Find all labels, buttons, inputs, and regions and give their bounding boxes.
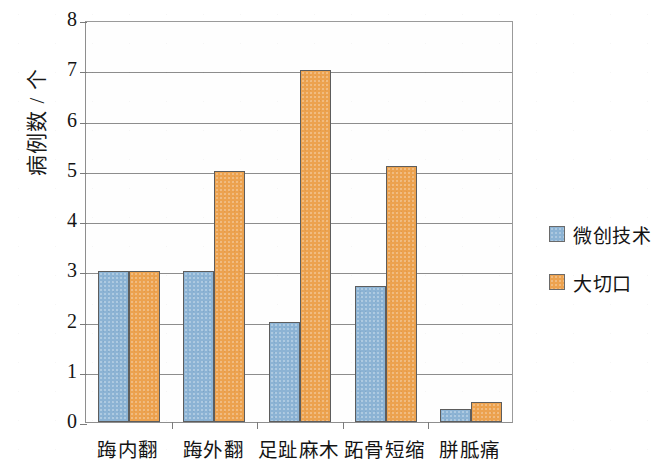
y-tick-mark <box>80 424 87 425</box>
y-tick-label: 2 <box>47 311 77 331</box>
y-tick-mark <box>80 273 87 274</box>
legend-swatch-icon <box>549 226 565 242</box>
bar <box>386 166 417 422</box>
y-tick-mark <box>80 223 87 224</box>
y-tick-mark <box>80 72 87 73</box>
x-tick-mark <box>428 422 429 429</box>
y-tick-label: 4 <box>47 210 77 230</box>
bar <box>355 286 386 422</box>
plot-area <box>85 21 513 423</box>
y-tick-label: 7 <box>47 59 77 79</box>
bar <box>214 171 245 422</box>
gridline <box>86 72 512 73</box>
x-tick-label: 跖骨短缩 <box>342 434 428 463</box>
y-tick-label: 3 <box>47 260 77 280</box>
legend-label: 微创技术 <box>573 221 651 248</box>
y-tick-mark <box>80 374 87 375</box>
bar <box>269 322 300 423</box>
y-tick-label: 1 <box>47 361 77 381</box>
legend-label: 大切口 <box>573 269 632 296</box>
bar <box>440 409 471 422</box>
bar <box>300 70 331 422</box>
gridline <box>86 223 512 224</box>
y-tick-mark <box>80 22 87 23</box>
x-tick-label: 胼胝痛 <box>427 434 513 463</box>
y-axis-label: 病例数 / 个 <box>20 22 48 222</box>
y-tick-mark <box>80 173 87 174</box>
bar-chart-figure: 病例数 / 个 876543210 踇内翻踇外翻足趾麻木跖骨短缩胼胝痛 微创技术… <box>0 0 660 463</box>
legend-item: 大切口 <box>549 272 660 292</box>
bar <box>98 271 129 422</box>
legend-swatch-icon <box>549 274 565 290</box>
legend-item: 微创技术 <box>549 224 660 244</box>
x-tick-label: 足趾麻木 <box>256 434 342 463</box>
gridline <box>86 123 512 124</box>
y-tick-mark <box>80 324 87 325</box>
y-tick-label: 6 <box>47 110 77 130</box>
y-tick-label: 5 <box>47 160 77 180</box>
bar <box>183 271 214 422</box>
bar <box>129 271 160 422</box>
y-tick-label: 8 <box>47 9 77 29</box>
gridline <box>86 173 512 174</box>
y-tick-mark <box>80 123 87 124</box>
x-tick-mark <box>172 422 173 429</box>
x-tick-label: 踇外翻 <box>171 434 257 463</box>
x-tick-mark <box>343 422 344 429</box>
x-tick-label: 踇内翻 <box>85 434 171 463</box>
legend: 微创技术大切口 <box>549 224 660 320</box>
bar <box>471 402 502 422</box>
y-tick-label: 0 <box>47 411 77 431</box>
x-tick-mark <box>257 422 258 429</box>
